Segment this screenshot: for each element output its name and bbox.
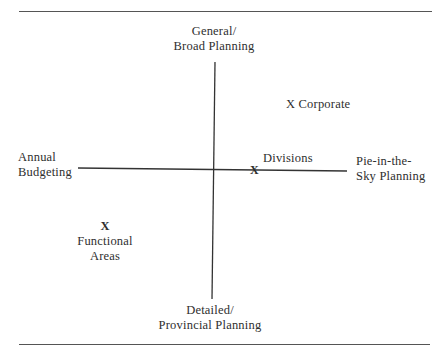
x-marker-icon: X [65,219,145,234]
point-label: Functional [65,234,145,249]
horizontal-axis [78,168,347,171]
point-functional-areas: X Functional Areas [65,219,145,264]
label-line: Provincial Planning [150,318,270,333]
axis-label-pie-in-the-sky-planning: Pie-in-the- Sky Planning [356,154,425,184]
point-divisions-label: Divisions [263,151,313,166]
label-line: Pie-in-the- [356,154,425,169]
label-line: Broad Planning [154,39,274,54]
point-label: X Corporate [286,97,350,111]
label-line: General/ [154,24,274,39]
label-line: Sky Planning [356,169,425,184]
point-label: Divisions [263,151,313,165]
point-corporate: X Corporate [286,97,350,112]
axis-label-annual-budgeting: Annual Budgeting [18,150,72,180]
label-line: Detailed/ [150,303,270,318]
point-label: Areas [65,249,145,264]
label-line: Annual [18,150,72,165]
axis-label-general-broad-planning: General/ Broad Planning [154,24,274,54]
point-divisions-marker: X [250,163,259,178]
axis-label-detailed-provincial-planning: Detailed/ Provincial Planning [150,303,270,333]
vertical-axis [212,62,215,299]
x-marker-icon: X [250,163,259,177]
label-line: Budgeting [18,165,72,180]
